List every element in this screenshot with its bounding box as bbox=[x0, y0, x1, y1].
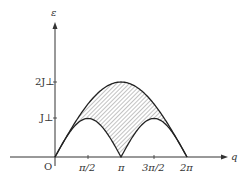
y-axis-arrow-icon bbox=[53, 22, 58, 29]
x-axis-label: q bbox=[231, 151, 237, 162]
y-tick-label-J: J⊥ bbox=[39, 112, 53, 123]
y-tick-label-2J: 2J⊥ bbox=[35, 76, 55, 87]
continuum-region bbox=[55, 82, 187, 157]
x-tick-label-pi: π bbox=[117, 162, 125, 173]
y-axis-label: ε bbox=[51, 7, 56, 18]
x-axis-arrow-icon bbox=[221, 155, 228, 160]
dispersion-diagram: ε q O 2J⊥ J⊥ π/2 π 3π/2 2π bbox=[0, 0, 248, 182]
x-tick-label-3pi-half: 3π/2 bbox=[142, 162, 165, 173]
x-tick-label-2pi: 2π bbox=[179, 162, 193, 173]
x-tick-label-pi-half: π/2 bbox=[78, 162, 95, 173]
origin-label: O bbox=[44, 161, 52, 172]
